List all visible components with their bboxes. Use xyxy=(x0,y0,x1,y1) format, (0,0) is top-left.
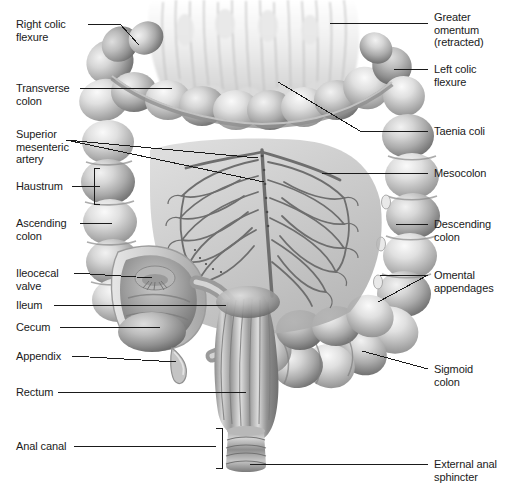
label-left-colic-flexure: Left colic flexure xyxy=(434,63,476,88)
label-right-colic-flexure: Right colic flexure xyxy=(16,18,66,43)
ileocecal-valve-structure xyxy=(135,266,175,290)
label-transverse-colon: Transverse colon xyxy=(16,82,70,107)
rectum-structure xyxy=(215,286,280,441)
label-ileocecal-valve: Ileocecal valve xyxy=(16,267,59,292)
anal-canal-structure xyxy=(226,426,266,472)
large-intestine-illustration xyxy=(0,0,507,496)
label-ascending-colon: Ascending colon xyxy=(16,217,66,242)
label-descending-colon: Descending colon xyxy=(434,218,491,243)
cecum-structure xyxy=(111,246,206,352)
label-omental-appendages: Omental appendages xyxy=(434,269,494,294)
label-superior-mesenteric-artery: Superior mesenteric artery xyxy=(16,128,69,166)
label-greater-omentum: Greater omentum (retracted) xyxy=(434,11,484,49)
label-anal-canal: Anal canal xyxy=(16,440,66,453)
anatomical-figure: Right colic flexure Transverse colon Sup… xyxy=(0,0,507,496)
label-external-anal-sphincter: External anal sphincter xyxy=(434,458,497,483)
label-mesocolon: Mesocolon xyxy=(434,167,486,180)
appendix-structure xyxy=(171,348,187,383)
label-taenia-coli: Taenia coli xyxy=(434,125,485,138)
label-sigmoid-colon: Sigmoid colon xyxy=(434,363,473,388)
label-rectum: Rectum xyxy=(16,386,53,399)
label-haustrum: Haustrum xyxy=(16,180,63,193)
label-ileum: Ileum xyxy=(16,299,42,312)
label-appendix: Appendix xyxy=(16,350,61,363)
label-cecum: Cecum xyxy=(16,321,50,334)
